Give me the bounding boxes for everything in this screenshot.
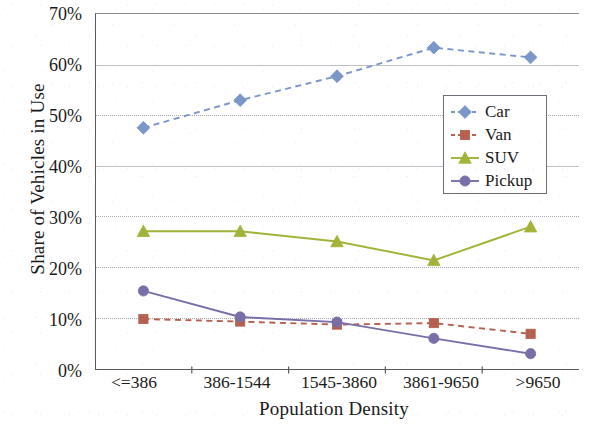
data-point-car <box>137 121 150 134</box>
chart-container: Share of Vehicles in Use 70% 60% 50% 40%… <box>0 0 591 428</box>
data-point-van <box>429 318 438 327</box>
data-point-car <box>331 70 344 83</box>
legend-marker <box>459 105 472 118</box>
data-point-pickup <box>138 286 148 296</box>
x-tick-label: 1545-3860 <box>289 372 389 393</box>
legend-marker-circle-icon <box>450 174 480 188</box>
data-point-van <box>139 314 148 323</box>
legend-label: Car <box>485 103 510 120</box>
x-axis-title: Population Density <box>88 398 580 420</box>
legend-label: SUV <box>485 149 519 166</box>
legend-marker-diamond-icon <box>450 105 480 119</box>
data-point-pickup <box>429 333 439 343</box>
data-point-suv <box>524 220 536 231</box>
x-tick-label: 386-1544 <box>187 372 287 393</box>
legend-item-pickup[interactable]: Pickup <box>450 169 541 192</box>
legend-marker-square-icon <box>450 128 480 142</box>
series-layer <box>0 0 591 428</box>
legend-marker-triangle-icon <box>450 151 480 165</box>
data-point-car <box>234 94 247 107</box>
data-point-pickup <box>235 312 245 322</box>
x-tick-label: <=386 <box>86 372 182 393</box>
legend-item-car[interactable]: Car <box>450 100 541 123</box>
data-point-car <box>427 41 440 54</box>
x-tick-label: >9650 <box>494 372 582 393</box>
x-tick-label: 3861-9650 <box>391 372 491 393</box>
legend-label: Pickup <box>485 172 532 189</box>
data-point-pickup <box>332 317 342 327</box>
legend-item-van[interactable]: Van <box>450 123 541 146</box>
legend-label: Van <box>485 126 511 143</box>
data-point-car <box>524 51 537 64</box>
legend-marker <box>460 175 470 185</box>
legend-item-suv[interactable]: SUV <box>450 146 541 169</box>
legend-marker <box>460 130 469 139</box>
data-point-pickup <box>526 349 536 359</box>
data-point-van <box>526 329 535 338</box>
chart-legend: Car Van SUV Pickup <box>443 95 547 194</box>
